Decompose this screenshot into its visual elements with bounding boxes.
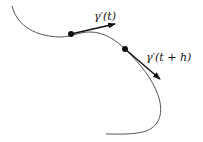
point-gamma-t-plus-h — [122, 46, 128, 52]
point-gamma-t — [68, 31, 74, 37]
label-tangent-t-plus-h: γ′(t + h) — [146, 52, 191, 63]
label-tangent-t: γ′(t) — [94, 11, 116, 22]
curve-gamma — [12, 6, 161, 134]
